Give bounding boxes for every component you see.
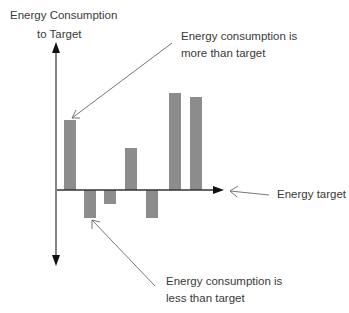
bar-7: [190, 97, 202, 190]
bar-1: [64, 120, 76, 190]
bar-6: [169, 93, 181, 190]
arrow-up-icon: [52, 42, 60, 53]
bar-2: [84, 190, 96, 218]
arrow-right-icon: [213, 186, 224, 194]
arrow-down-icon: [52, 255, 60, 266]
pointer-more-than-target: [72, 43, 172, 118]
pointer-less-than-target: [92, 220, 155, 286]
pointer-energy-target: [230, 186, 269, 197]
vertical-axis: [52, 42, 60, 266]
diagram-canvas: [0, 0, 349, 313]
bar-5: [146, 190, 158, 218]
bar-3: [104, 190, 116, 204]
bar-4: [125, 148, 137, 190]
bars: [64, 93, 202, 218]
